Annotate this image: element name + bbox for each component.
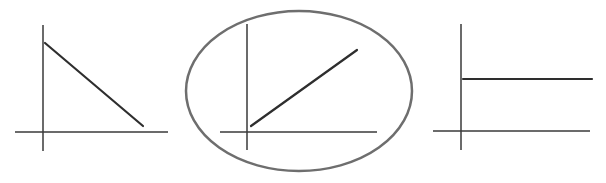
diagram-canvas xyxy=(0,0,606,183)
graph-increasing-circled xyxy=(186,11,412,171)
graphs-diagram xyxy=(0,0,606,183)
graph-1-decreasing-line xyxy=(45,43,143,126)
graph-2-increasing-line xyxy=(251,50,357,126)
graph-decreasing xyxy=(15,25,168,151)
graph-constant xyxy=(433,24,592,150)
